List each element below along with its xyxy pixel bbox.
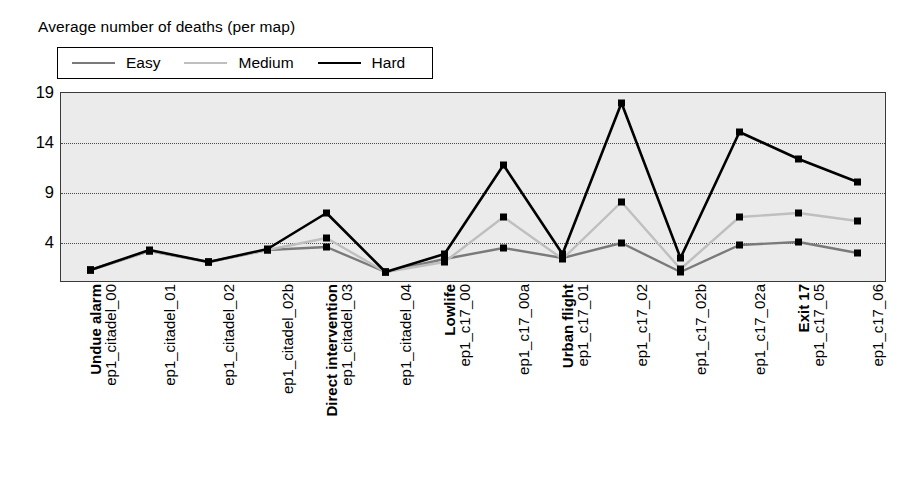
- chart-title: Average number of deaths (per map): [38, 18, 295, 36]
- data-point-marker: [205, 259, 212, 266]
- x-axis-label: ep1_c17_06: [870, 284, 886, 367]
- legend-label-hard: Hard: [372, 54, 406, 72]
- legend-label-easy: Easy: [126, 54, 160, 72]
- x-axis-tick-group: ep1_c17_01Urban flight: [532, 284, 591, 494]
- x-axis-label: ep1_citadel_04: [398, 284, 414, 386]
- data-point-marker: [146, 247, 153, 254]
- x-axis-label: ep1_citadel_02b: [280, 284, 296, 394]
- x-axis-tick-group: ep1_citadel_01: [119, 284, 178, 494]
- data-point-marker: [618, 100, 625, 107]
- x-axis-tick-group: ep1_citadel_02: [178, 284, 237, 494]
- x-axis-tick-group: ep1_citadel_02b: [237, 284, 296, 494]
- x-axis-tick-group: ep1_citadel_00Undue alarm: [60, 284, 119, 494]
- x-axis-tick-group: ep1_c17_05Exit 17: [768, 284, 827, 494]
- data-point-marker: [500, 214, 507, 221]
- data-point-marker: [323, 244, 330, 251]
- x-axis-group-label: Undue alarm: [88, 284, 104, 375]
- data-point-marker: [500, 162, 507, 169]
- x-axis-label: ep1_c17_05: [811, 284, 827, 367]
- legend-item-hard: Hard: [318, 54, 406, 72]
- data-point-marker: [323, 210, 330, 217]
- data-point-marker: [795, 239, 802, 246]
- legend-label-medium: Medium: [238, 54, 293, 72]
- x-axis-labels: ep1_citadel_00Undue alarmep1_citadel_01e…: [60, 284, 886, 494]
- data-point-marker: [500, 245, 507, 252]
- x-axis-tick-group: ep1_c17_06: [827, 284, 886, 494]
- x-axis-tick-group: ep1_c17_00a: [473, 284, 532, 494]
- data-point-marker: [677, 266, 684, 273]
- x-axis-tick-group: ep1_c17_02: [591, 284, 650, 494]
- data-point-marker: [795, 210, 802, 217]
- x-axis-group-label: Direct intervention: [324, 284, 340, 417]
- plot-area: [60, 92, 886, 282]
- legend-swatch-hard-icon: [318, 62, 361, 64]
- y-tick-label: 4: [10, 234, 54, 251]
- x-axis-label: ep1_c17_02a: [752, 284, 768, 375]
- y-tick-label: 9: [10, 184, 54, 201]
- data-point-marker: [854, 250, 861, 257]
- data-point-marker: [559, 251, 566, 258]
- x-axis-tick-group: ep1_c17_00Lowlife: [414, 284, 473, 494]
- data-point-marker: [382, 269, 389, 276]
- y-axis: 191494: [6, 92, 54, 282]
- x-axis-group-label: Exit 17: [796, 284, 812, 332]
- x-axis-group-label: Urban flight: [560, 284, 576, 368]
- legend-item-easy: Easy: [72, 54, 160, 72]
- data-point-marker: [677, 255, 684, 262]
- data-point-marker: [736, 129, 743, 136]
- data-point-marker: [441, 251, 448, 258]
- x-axis-label: ep1_citadel_03: [339, 284, 355, 386]
- x-axis-group-label: Lowlife: [442, 284, 458, 336]
- data-point-marker: [618, 199, 625, 206]
- legend-item-medium: Medium: [184, 54, 293, 72]
- data-point-marker: [618, 240, 625, 247]
- legend-swatch-medium-icon: [184, 62, 227, 64]
- x-axis-tick-group: ep1_c17_02a: [709, 284, 768, 494]
- data-point-marker: [441, 259, 448, 266]
- x-axis-label: ep1_c17_00a: [516, 284, 532, 375]
- plot-inner: [61, 93, 885, 281]
- data-point-marker: [854, 179, 861, 186]
- data-point-marker: [736, 214, 743, 221]
- chart-legend: Easy Medium Hard: [57, 47, 433, 79]
- chart-root: Average number of deaths (per map) Easy …: [0, 0, 915, 498]
- x-axis-label: ep1_c17_01: [575, 284, 591, 367]
- series-layer: [61, 93, 886, 282]
- legend-swatch-easy-icon: [72, 62, 115, 64]
- data-point-marker: [264, 246, 271, 253]
- x-axis-label: ep1_c17_02b: [693, 284, 709, 375]
- x-axis-label: ep1_citadel_02: [221, 284, 237, 386]
- x-axis-label: ep1_c17_00: [457, 284, 473, 367]
- x-axis-tick-group: ep1_citadel_04: [355, 284, 414, 494]
- x-axis-tick-group: ep1_citadel_03Direct intervention: [296, 284, 355, 494]
- x-axis-tick-group: ep1_c17_02b: [650, 284, 709, 494]
- y-tick-label: 14: [10, 134, 54, 151]
- x-axis-label: ep1_c17_02: [634, 284, 650, 367]
- y-tick-label: 19: [10, 84, 54, 101]
- data-point-marker: [854, 218, 861, 225]
- x-axis-label: ep1_citadel_01: [162, 284, 178, 386]
- data-point-marker: [323, 235, 330, 242]
- data-point-marker: [795, 156, 802, 163]
- data-point-marker: [87, 267, 94, 274]
- data-point-marker: [736, 242, 743, 249]
- x-axis-label: ep1_citadel_00: [103, 284, 119, 386]
